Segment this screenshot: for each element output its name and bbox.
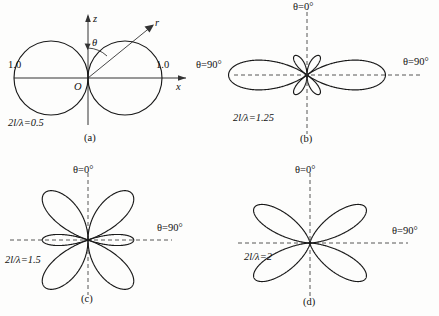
lobe	[88, 191, 134, 240]
r-ray-line	[88, 26, 152, 78]
theta-ninety-label-c: θ=90°	[157, 223, 183, 234]
lobe	[254, 204, 310, 243]
caption-d: (d)	[303, 297, 315, 308]
caption-a: (a)	[84, 133, 96, 144]
panel-a-ray	[85, 25, 154, 79]
caption-b: (b)	[300, 134, 312, 145]
caption-c: (c)	[81, 294, 93, 305]
lobe	[310, 243, 366, 282]
origin-label: O	[74, 82, 82, 93]
panel-b: θ=0° θ=90° 2l/λ=1.25 (b)	[220, 0, 439, 155]
panel-d-axes	[238, 173, 408, 298]
theta-zero-label-c: θ=0°	[73, 165, 93, 176]
panel-a-plot	[0, 0, 220, 155]
panel-d: θ=0° θ=90° 2l/λ=2 (d)	[230, 155, 439, 316]
theta-zero-label-d: θ=0°	[295, 165, 315, 176]
theta-ninety-label-d: θ=90°	[392, 226, 418, 237]
panel-c-plot	[0, 155, 230, 316]
theta-arc	[88, 48, 107, 56]
theta-ninety-label-a: θ=90°	[196, 60, 222, 71]
axis-x-label: x	[176, 82, 181, 93]
panel-c-axes	[10, 173, 172, 295]
lobe	[88, 240, 134, 289]
lobe	[229, 60, 306, 90]
panel-b-plot	[220, 0, 439, 155]
ratio-label-b: 2l/λ=1.25	[233, 113, 274, 124]
ratio-label-d: 2l/λ=2	[244, 252, 272, 263]
radiation-pattern-figure: 1.0 1.0 z x O θ r θ=90° 2l/λ=0.5 (a) θ=0…	[0, 0, 439, 316]
lobe	[310, 204, 366, 243]
lobe	[42, 240, 88, 289]
theta-angle-label: θ	[92, 38, 97, 49]
ratio-label-c: 2l/λ=1.5	[5, 255, 41, 266]
axis-z-label: z	[93, 14, 97, 25]
theta-ninety-label-b: θ=90°	[403, 57, 429, 68]
scale-left-label: 1.0	[8, 60, 21, 71]
panel-c: θ=0° θ=90° 2l/λ=1.5 (c)	[0, 155, 230, 316]
z-axis-arrowhead	[85, 14, 91, 22]
ratio-label-a: 2l/λ=0.5	[8, 118, 44, 129]
panel-a: 1.0 1.0 z x O θ r θ=90° 2l/λ=0.5 (a)	[0, 0, 220, 155]
scale-right-label: 1.0	[156, 60, 169, 71]
ray-r-label: r	[155, 18, 159, 29]
theta-zero-label-b: θ=0°	[293, 2, 313, 13]
x-axis-arrowhead	[178, 75, 186, 81]
lobe	[42, 191, 88, 240]
theta-arc-arrowhead	[85, 44, 91, 51]
